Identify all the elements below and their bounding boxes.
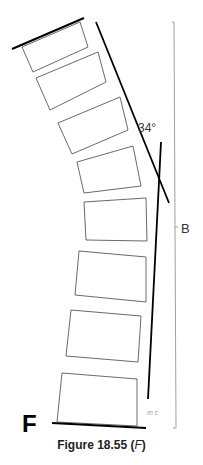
vertebra-2 [36,52,106,110]
vertebra-4 [77,146,141,193]
vertebra-3 [58,97,128,154]
lower-tangent-line [148,142,161,399]
bracket-label: B [181,221,190,236]
angle-label: 34° [138,121,156,135]
caption-suffix: ) [142,438,146,452]
figure-caption: Figure 18.55 (F) [0,438,203,452]
caption-italic: F [135,438,142,452]
vertebra-6 [75,251,146,302]
vertebra-7 [66,310,141,362]
panel-label: F [22,410,37,438]
top-endplate-line [12,18,84,49]
plumb-bracket [172,22,176,428]
vertebra-5 [84,198,147,241]
upper-tangent-line [96,22,169,203]
spine-diagram [0,0,203,465]
caption-prefix: Figure 18.55 ( [57,438,134,452]
handwritten-mark: m c [147,409,158,416]
vertebra-8 [57,373,137,426]
